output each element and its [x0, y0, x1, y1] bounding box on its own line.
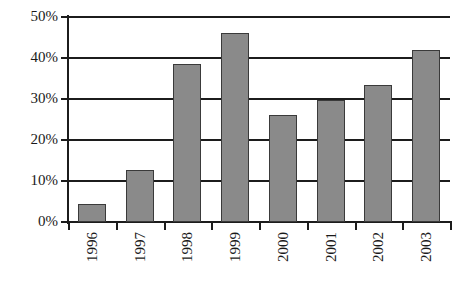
y-axis-line: [67, 15, 69, 224]
y-axis-tick-label: 40%: [0, 50, 58, 65]
y-axis-tick-label: 20%: [0, 132, 58, 147]
bar: [173, 64, 201, 222]
gridline: [68, 139, 450, 141]
x-axis-tick-mark: [307, 222, 309, 230]
bar: [412, 50, 440, 222]
x-axis-category-label: 1998: [180, 232, 195, 262]
gridline: [68, 98, 450, 100]
x-axis-category-label: 1996: [84, 232, 99, 262]
x-axis-tick-mark: [355, 222, 357, 230]
gridline: [68, 57, 450, 59]
bar: [126, 170, 154, 222]
x-axis-category-label: 1999: [228, 232, 243, 262]
x-axis-tick-mark: [450, 222, 452, 230]
y-axis-tick-label: 50%: [0, 9, 58, 24]
x-axis-tick-mark: [68, 222, 70, 230]
x-axis-tick-mark: [259, 222, 261, 230]
x-axis-category-label: 2003: [419, 232, 434, 262]
y-axis-tick-label: 30%: [0, 91, 58, 106]
bar: [317, 100, 345, 222]
bar-chart-figure: 0%10%20%30%40%50% 1996199719981999200020…: [0, 0, 463, 286]
x-axis-category-label: 1997: [132, 232, 147, 262]
y-axis-tick-label: 0%: [0, 214, 58, 229]
x-axis-category-label: 2001: [323, 232, 338, 262]
x-axis-category-label: 2002: [371, 232, 386, 262]
x-axis-tick-mark: [116, 222, 118, 230]
y-axis-tick-label: 10%: [0, 173, 58, 188]
x-axis-tick-mark: [402, 222, 404, 230]
bar: [364, 85, 392, 222]
bar: [78, 204, 106, 222]
bar: [221, 33, 249, 222]
bar: [269, 115, 297, 222]
gridline: [68, 16, 450, 18]
x-axis-tick-mark: [164, 222, 166, 230]
x-axis-tick-mark: [211, 222, 213, 230]
x-axis-category-label: 2000: [275, 232, 290, 262]
